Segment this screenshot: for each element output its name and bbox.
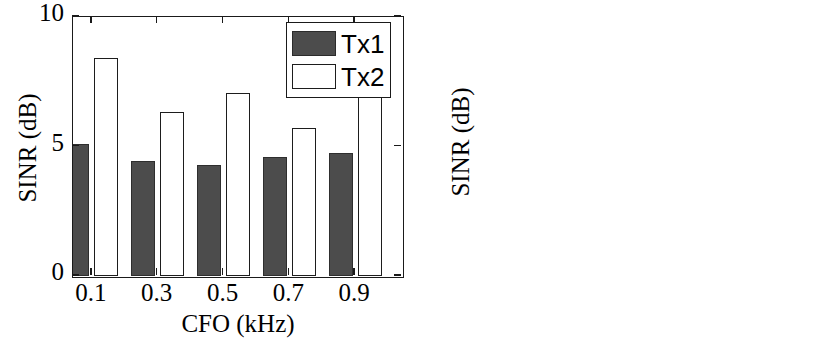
x-tick-mark bbox=[156, 16, 158, 23]
x-tick-mark bbox=[222, 16, 224, 23]
y-tick-mark bbox=[394, 274, 401, 276]
legend-label-tx1: Tx1 bbox=[341, 31, 384, 57]
legend-swatch-tx2-icon bbox=[292, 64, 336, 89]
x-tick-mark bbox=[288, 268, 290, 275]
bar-tx2-0.9 bbox=[358, 95, 382, 276]
bar-tx2-0.1 bbox=[94, 58, 118, 276]
bar-tx2-0.7 bbox=[292, 128, 316, 276]
bar-tx1-0.1 bbox=[73, 144, 89, 276]
y-tick-mark bbox=[72, 15, 79, 17]
bar-tx1-0.3 bbox=[131, 161, 155, 276]
bar-tx2-0.5 bbox=[226, 93, 250, 276]
x-tick-mark bbox=[156, 268, 158, 275]
legend-item-tx2[interactable]: Tx2 bbox=[292, 60, 384, 93]
chart-panel-left: SINR (dB) 1050 0.10.30.50.70.9 CFO (kHz)… bbox=[0, 0, 419, 346]
y-axis-title-right: SINR (dB) bbox=[447, 62, 475, 222]
figure: SINR (dB) 1050 0.10.30.50.70.9 CFO (kHz)… bbox=[0, 0, 838, 346]
chart-panel-right: SINR (dB) 1050−5 11.522.533.54 CFO (kHz)… bbox=[419, 0, 838, 346]
x-tick-mark bbox=[353, 268, 355, 275]
x-tick-label: 0.9 bbox=[314, 279, 394, 307]
y-tick-mark bbox=[72, 274, 79, 276]
y-tick-mark bbox=[72, 145, 79, 147]
y-tick-mark bbox=[394, 145, 401, 147]
y-tick-label: 10 bbox=[6, 0, 64, 27]
legend-left[interactable]: Tx1 Tx2 bbox=[286, 22, 391, 98]
x-axis-title-left: CFO (kHz) bbox=[72, 310, 404, 338]
bar-tx1-0.5 bbox=[197, 165, 221, 276]
bar-tx1-0.9 bbox=[329, 153, 353, 276]
legend-label-tx2: Tx2 bbox=[341, 64, 384, 90]
y-tick-label: 5 bbox=[6, 129, 64, 157]
legend-swatch-tx1-icon bbox=[292, 31, 336, 56]
y-tick-mark bbox=[394, 15, 401, 17]
x-tick-mark bbox=[90, 268, 92, 275]
bar-tx1-0.7 bbox=[263, 157, 287, 276]
bar-tx2-0.3 bbox=[160, 112, 184, 276]
x-tick-mark bbox=[90, 16, 92, 23]
x-tick-mark bbox=[222, 268, 224, 275]
legend-item-tx1[interactable]: Tx1 bbox=[292, 27, 384, 60]
